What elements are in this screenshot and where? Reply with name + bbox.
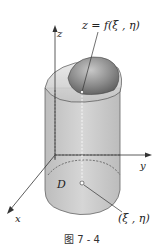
surface-equation-label: z = f(ξ , η) xyxy=(82,19,140,32)
y-axis-arrow xyxy=(145,153,152,158)
figure-caption: 图 7 - 4 xyxy=(0,231,164,246)
point-label: (ξ , η) xyxy=(118,212,150,225)
cylinder-body xyxy=(45,88,120,215)
domain-point xyxy=(80,181,84,185)
y-axis-label: y xyxy=(140,160,146,171)
surface-point xyxy=(80,90,83,93)
figure-7-4: z = f(ξ , η) z y x D (ξ , η) 图 7 - 4 xyxy=(0,0,164,250)
x-axis-arrow xyxy=(7,206,14,214)
region-label: D xyxy=(57,178,66,191)
x-axis-label: x xyxy=(15,213,21,224)
z-axis-label: z xyxy=(57,28,62,39)
